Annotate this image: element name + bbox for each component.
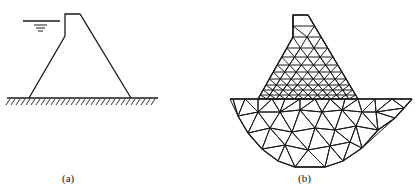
panel-a-dam-section <box>6 14 158 105</box>
figure-canvas <box>0 0 415 186</box>
caption-a: (a) <box>62 172 74 184</box>
water-surface-icon <box>34 25 47 31</box>
dam-outline <box>29 14 131 98</box>
panel-b-fe-mesh <box>230 15 412 167</box>
caption-b: (b) <box>298 172 311 184</box>
ground-hatching <box>6 99 155 105</box>
foundation-boundary <box>233 99 412 167</box>
